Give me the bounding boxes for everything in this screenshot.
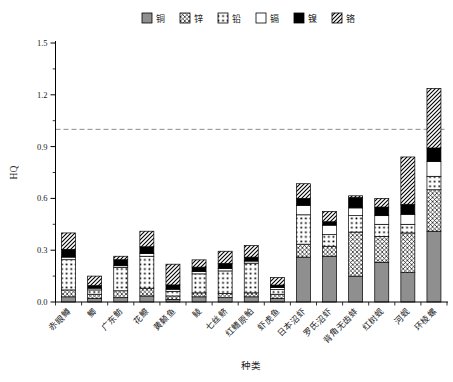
bar-segment-镍-鲫 bbox=[88, 286, 102, 289]
legend-item-镉: 镉 bbox=[256, 13, 279, 24]
x-category-label: 河蚬 bbox=[392, 306, 412, 326]
legend-swatch-铅 bbox=[218, 13, 228, 23]
y-tick-label: 0.6 bbox=[37, 193, 48, 203]
bar-segment-铜-虾虎鱼 bbox=[270, 299, 284, 302]
bar-segment-铜-鲮 bbox=[192, 297, 206, 302]
bar-segment-镍-日本沼虾 bbox=[296, 198, 310, 205]
x-category-label: 赤眼鳟 bbox=[47, 306, 73, 332]
hq-stacked-bar-chart: 0.00.30.60.91.21.5赤眼鳟鲫广东鲂花鰶黄颡鱼鲮七丝鲚红鳍原鲌虾虎… bbox=[0, 0, 453, 382]
bar-segment-铬-鲫 bbox=[88, 276, 102, 285]
bar-segment-镍-红鳍原鲌 bbox=[244, 257, 258, 261]
bar-segment-锌-环棱螺 bbox=[427, 190, 441, 231]
bar-segment-铅-鲮 bbox=[192, 274, 206, 293]
bar-segment-铬-红树蚬 bbox=[375, 198, 389, 207]
x-category-label: 环棱螺 bbox=[412, 306, 438, 332]
bar-segment-锌-赤眼鳟 bbox=[62, 290, 76, 297]
x-category-label: 鲮 bbox=[190, 306, 203, 319]
bar-segment-锌-花鰶 bbox=[140, 288, 154, 296]
y-axis-title: HQ bbox=[9, 166, 19, 180]
bar-segment-铜-鲫 bbox=[88, 299, 102, 302]
bar-segment-铅-日本沼虾 bbox=[296, 215, 310, 244]
bar-segment-铜-花鰶 bbox=[140, 296, 154, 302]
bar-segment-铬-虾虎鱼 bbox=[270, 277, 284, 285]
y-tick-label: 1.2 bbox=[37, 90, 48, 100]
bar-segment-锌-虾虎鱼 bbox=[270, 294, 284, 298]
bar-segment-铅-花鰶 bbox=[140, 256, 154, 288]
legend-item-铬: 铬 bbox=[332, 13, 355, 24]
legend-label-镍: 镍 bbox=[308, 13, 317, 24]
legend-label-铜: 铜 bbox=[156, 13, 165, 24]
bar-segment-铜-红树蚬 bbox=[375, 262, 389, 302]
bar-segment-铅-背角无齿蚌 bbox=[349, 216, 363, 232]
legend-label-锌: 锌 bbox=[194, 13, 203, 24]
bar-segment-镍-广东鲂 bbox=[114, 260, 128, 266]
bars-group bbox=[62, 88, 441, 302]
bar-segment-铬-黄颡鱼 bbox=[166, 264, 180, 285]
bar-segment-铅-七丝鲚 bbox=[218, 271, 232, 293]
bar-segment-锌-日本沼虾 bbox=[296, 244, 310, 257]
bar-segment-镉-花鰶 bbox=[140, 254, 154, 257]
bar-segment-锌-河蚬 bbox=[401, 233, 415, 273]
bar-segment-铅-黄颡鱼 bbox=[166, 291, 180, 296]
legend-label-铬: 铬 bbox=[346, 13, 355, 24]
bar-segment-铬-赤眼鳟 bbox=[62, 233, 76, 249]
bar-segment-铬-红鳍原鲌 bbox=[244, 246, 258, 258]
legend-swatch-铜 bbox=[142, 13, 152, 23]
bar-segment-镉-河蚬 bbox=[401, 214, 415, 224]
bar-segment-锌-背角无齿蚌 bbox=[349, 232, 363, 276]
x-category-label: 红树蚬 bbox=[360, 306, 386, 332]
x-category-label: 花鰶 bbox=[131, 306, 151, 326]
y-tick-label: 0.9 bbox=[37, 142, 48, 152]
bar-segment-锌-红树蚬 bbox=[375, 236, 389, 262]
bar-segment-铬-广东鲂 bbox=[114, 256, 128, 259]
bar-segment-锌-七丝鲚 bbox=[218, 293, 232, 297]
bar-segment-镉-背角无齿蚌 bbox=[349, 208, 363, 216]
legend: 铜锌铅镉镍铬 bbox=[142, 13, 355, 24]
bar-segment-锌-鲮 bbox=[192, 293, 206, 297]
bar-segment-铅-河蚬 bbox=[401, 224, 415, 233]
bar-segment-铜-七丝鲚 bbox=[218, 298, 232, 302]
bar-segment-镉-环棱螺 bbox=[427, 161, 441, 176]
bar-segment-镉-红树蚬 bbox=[375, 216, 389, 225]
bar-segment-镉-赤眼鳟 bbox=[62, 257, 76, 260]
y-tick-label: 0.3 bbox=[37, 245, 48, 255]
bar-segment-锌-罗氏沼虾 bbox=[323, 246, 337, 256]
legend-item-铅: 铅 bbox=[218, 13, 241, 24]
x-category-label: 黄颡鱼 bbox=[151, 306, 177, 332]
bar-segment-铬-背角无齿蚌 bbox=[349, 196, 363, 198]
x-category-label: 广东鲂 bbox=[99, 306, 125, 332]
bar-segment-铜-广东鲂 bbox=[114, 298, 128, 302]
legend-item-锌: 锌 bbox=[180, 13, 203, 24]
hq-stacked-bar-figure: 0.00.30.60.91.21.5赤眼鳟鲫广东鲂花鰶黄颡鱼鲮七丝鲚红鳍原鲌虾虎… bbox=[0, 0, 453, 382]
bar-segment-镉-罗氏沼虾 bbox=[323, 225, 337, 234]
bar-segment-镉-鲮 bbox=[192, 271, 206, 273]
bar-segment-铜-赤眼鳟 bbox=[62, 297, 76, 302]
bar-segment-铬-河蚬 bbox=[401, 157, 415, 204]
legend-label-镉: 镉 bbox=[270, 13, 279, 24]
legend-swatch-镉 bbox=[256, 13, 266, 23]
legend-swatch-镍 bbox=[294, 13, 304, 23]
bar-segment-铅-环棱螺 bbox=[427, 176, 441, 189]
x-category-label: 鲫 bbox=[86, 306, 99, 319]
x-category-label: 红鳍原鲌 bbox=[223, 306, 256, 339]
bar-segment-镍-七丝鲚 bbox=[218, 263, 232, 268]
bar-segment-镍-罗氏沼虾 bbox=[323, 222, 337, 225]
bar-segment-锌-广东鲂 bbox=[114, 291, 128, 298]
bar-segment-铅-虾虎鱼 bbox=[270, 290, 284, 295]
bar-segment-铬-罗氏沼虾 bbox=[323, 211, 337, 221]
bar-segment-镍-黄颡鱼 bbox=[166, 285, 180, 289]
bar-segment-镍-河蚬 bbox=[401, 204, 415, 214]
y-tick-label: 0.0 bbox=[37, 297, 48, 307]
bar-segment-镍-背角无齿蚌 bbox=[349, 198, 363, 208]
y-tick-label: 1.5 bbox=[37, 38, 48, 48]
bar-segment-铬-七丝鲚 bbox=[218, 251, 232, 263]
bar-segment-铬-环棱螺 bbox=[427, 88, 441, 148]
bar-segment-锌-鲫 bbox=[88, 294, 102, 298]
legend-swatch-锌 bbox=[180, 13, 190, 23]
bar-segment-铬-日本沼虾 bbox=[296, 184, 310, 199]
bar-segment-镉-七丝鲚 bbox=[218, 269, 232, 271]
legend-item-镍: 镍 bbox=[294, 13, 317, 24]
x-axis-title: 种类 bbox=[241, 360, 261, 371]
bar-segment-镍-赤眼鳟 bbox=[62, 249, 76, 257]
bar-segment-铅-红鳍原鲌 bbox=[244, 263, 258, 293]
